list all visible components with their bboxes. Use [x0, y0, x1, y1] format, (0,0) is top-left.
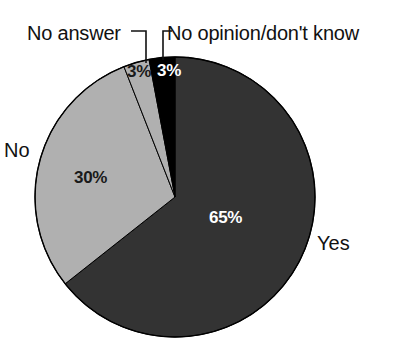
- pie-chart-graphic: [0, 0, 409, 351]
- value-label-no-opinion: 3%: [157, 62, 181, 80]
- category-label-yes: Yes: [317, 232, 350, 254]
- callout-label-no-opinion: No opinion/don't know: [167, 22, 359, 44]
- value-label-yes: 65%: [209, 209, 242, 227]
- category-label-no: No: [4, 139, 30, 161]
- callout-label-no-answer: No answer: [27, 22, 121, 44]
- value-label-no: 30%: [74, 169, 107, 187]
- value-label-no-answer: 3%: [127, 63, 151, 81]
- pie-slices-group: [35, 57, 315, 337]
- pie-chart-figure: No answer No opinion/don't know No Yes 6…: [0, 0, 409, 351]
